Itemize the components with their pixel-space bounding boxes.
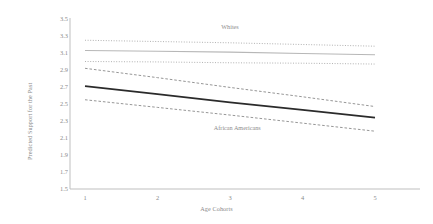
y-tick-label: 2.5 bbox=[40, 100, 68, 107]
y-tick-label: 2.9 bbox=[40, 66, 68, 73]
y-tick-label: 1.5 bbox=[40, 185, 68, 192]
series-line-whites bbox=[85, 50, 375, 54]
x-tick-label: 4 bbox=[291, 194, 315, 201]
chart-container: Predicted Support for the Past Age Cohor… bbox=[0, 0, 433, 224]
x-tick-label: 5 bbox=[363, 194, 387, 201]
y-tick-label: 3.1 bbox=[40, 49, 68, 56]
y-tick-label: 3.5 bbox=[40, 15, 68, 22]
x-tick-label: 3 bbox=[218, 194, 242, 201]
series-annotation-african-americans: African Americans bbox=[214, 124, 261, 131]
y-tick-label: 2.1 bbox=[40, 134, 68, 141]
y-tick-label: 2.7 bbox=[40, 83, 68, 90]
y-tick-label: 3.3 bbox=[40, 32, 68, 39]
x-tick-label: 2 bbox=[146, 194, 170, 201]
y-axis-title: Predicted Support for the Past bbox=[26, 83, 33, 160]
series-line-whites-ci-lower bbox=[85, 62, 375, 65]
y-tick-label: 1.7 bbox=[40, 168, 68, 175]
series-line-whites-ci-upper bbox=[85, 40, 375, 46]
series-line-african-americans bbox=[85, 86, 375, 117]
x-axis-title: Age Cohorts bbox=[0, 205, 433, 212]
series-line-african-americans-ci-upper bbox=[85, 68, 375, 106]
series-annotation-whites: Whites bbox=[221, 23, 239, 30]
y-tick-label: 1.9 bbox=[40, 151, 68, 158]
x-tick-label: 1 bbox=[73, 194, 97, 201]
y-tick-label: 2.3 bbox=[40, 117, 68, 124]
